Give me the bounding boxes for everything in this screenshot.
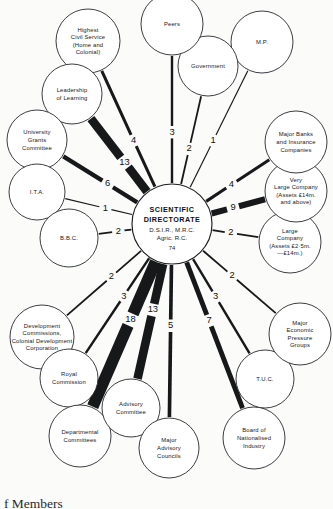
node-label-very-large-company: and above) [281, 199, 312, 205]
node-label-major-economic-pressure-groups: Groups [290, 342, 310, 348]
hub-subtitle-line1: D.S.I.R., M.R.C. [149, 226, 194, 233]
edge-value-leadership-of-learning: 13 [119, 156, 129, 167]
node-label-large-company: Large [282, 228, 298, 234]
spoke-outer-government [190, 96, 201, 143]
spoke-outer-major-banks-and-insurance [237, 160, 270, 182]
spoke-major-economic-pressure-groups [203, 251, 227, 272]
node-label-highest-civil-service: Colonial) [76, 49, 101, 55]
node-label-board-of-nationalised-industry: Board of [242, 427, 266, 433]
node-label-university-grants-committee: Committee [22, 145, 52, 151]
node-label-major-banks-and-insurance: Major Banks [279, 131, 313, 137]
edge-value-tuc: 3 [213, 290, 218, 301]
edge-value-bbc: 2 [116, 225, 121, 236]
hub-title-line2: DIRECTORATE [144, 215, 201, 224]
node-label-large-company: (Assets £2·5m. [269, 243, 311, 249]
spoke-outer-very-large-company [239, 199, 265, 206]
spoke-bbc [124, 230, 131, 231]
network-diagram: HighestCivil Service(Home andColonial)Le… [0, 0, 333, 509]
spoke-university-grants-committee [113, 187, 137, 202]
node-label-advisory-committee: Advisory [119, 401, 143, 407]
edge-value-board-of-nationalised-industry: 7 [206, 314, 211, 325]
node-label-very-large-company: (Assets £14m. [276, 192, 316, 198]
edge-value-major-banks-and-insurance: 4 [229, 178, 234, 189]
edge-value-highest-civil-service: 4 [131, 134, 136, 145]
spoke-large-company [213, 230, 225, 232]
node-label-departmental-committees: Committees [64, 437, 97, 443]
hub-title-line1: SCIENTIFIC [150, 205, 195, 214]
spoke-major-advisory-councils [171, 265, 172, 320]
spoke-outer-ita [65, 199, 99, 207]
node-label-board-of-nationalised-industry: Industry [243, 443, 265, 449]
spoke-outer-leadership-of-learning [91, 119, 121, 158]
node-label-royal-commission: Royal [61, 371, 77, 377]
node-label-mp: M.P. [256, 39, 268, 45]
node-label-major-advisory-councils: Major [161, 437, 176, 443]
node-label-university-grants-committee: Grants [28, 137, 47, 143]
edge-value-development-commissions: 2 [109, 270, 114, 281]
edge-value-major-economic-pressure-groups: 2 [230, 269, 235, 280]
spoke-ita [111, 210, 132, 215]
edge-value-royal-commission: 3 [121, 290, 126, 301]
edge-value-peers: 3 [169, 126, 174, 137]
node-label-large-company: Company [277, 235, 303, 241]
edge-value-departmental-committees: 18 [125, 313, 135, 324]
spoke-outer-bbc [99, 232, 112, 234]
node-label-peers: Peers [164, 21, 180, 27]
spoke-outer-highest-civil-service [102, 71, 131, 135]
edge-value-government: 2 [187, 142, 192, 153]
figure-caption: f Members [4, 496, 63, 509]
node-label-major-advisory-councils: Advisory [157, 445, 181, 451]
node-label-tuc: T.U.C. [256, 376, 273, 382]
spoke-outer-tuc [219, 302, 250, 353]
edge-value-large-company: 2 [228, 226, 233, 237]
edge-value-mp: 1 [211, 134, 216, 145]
spoke-government [181, 155, 188, 184]
node-label-development-commissions: Colonial Development [12, 338, 73, 344]
spoke-leadership-of-learning [128, 167, 147, 191]
hub-circle [132, 184, 212, 264]
spoke-very-large-company [212, 209, 227, 213]
node-circle-peers[interactable] [141, 0, 203, 55]
spoke-mp [190, 146, 210, 187]
node-label-ita: I.T.A. [30, 189, 45, 195]
node-label-large-company: —£14m.) [277, 250, 302, 256]
edge-value-very-large-company: 9 [230, 201, 235, 212]
spoke-outer-major-economic-pressure-groups [237, 280, 276, 313]
node-label-highest-civil-service: Highest [77, 27, 98, 33]
edge-value-university-grants-committee: 6 [105, 177, 110, 188]
edge-value-ita: 1 [103, 202, 108, 213]
network-svg: HighestCivil Service(Home andColonial)Le… [0, 0, 333, 509]
node-label-departmental-committees: Departmental [61, 429, 98, 435]
node-label-highest-civil-service: (Home and [73, 42, 104, 48]
spoke-board-of-nationalised-industry [187, 262, 207, 315]
node-label-bbc: B.B.C. [60, 235, 78, 241]
node-label-development-commissions: Commissions, [23, 330, 62, 336]
node-label-major-economic-pressure-groups: Pressure [288, 335, 313, 341]
node-label-development-commissions: Development [24, 323, 61, 329]
node-label-leadership-of-learning: Leadership [57, 87, 88, 93]
node-label-leadership-of-learning: of Learning [56, 95, 87, 101]
node-label-board-of-nationalised-industry: Nationalised [237, 435, 271, 441]
hub-subtitle-line2: Agric. R.C. [157, 234, 188, 241]
spoke-outer-development-commissions [67, 281, 107, 316]
node-label-major-economic-pressure-groups: Economic [286, 327, 313, 333]
node-label-royal-commission: Commission [52, 379, 86, 385]
spoke-outer-large-company [237, 234, 258, 237]
node-label-very-large-company: Large Company [274, 184, 318, 190]
node-label-major-banks-and-insurance: Companies [280, 147, 311, 153]
spoke-outer-advisory-committee [138, 316, 152, 379]
hub-member-count: 74 [169, 245, 176, 251]
node-label-government: Government [191, 63, 225, 69]
node-label-university-grants-committee: University [23, 129, 50, 135]
node-label-very-large-company: Very [290, 177, 302, 183]
spoke-outer-major-advisory-councils [169, 332, 170, 417]
node-label-major-banks-and-insurance: and Insurance [276, 139, 316, 145]
edge-value-advisory-committee: 13 [148, 303, 158, 314]
node-label-advisory-committee: Committee [116, 409, 146, 415]
hub-layer: SCIENTIFIC DIRECTORATE D.S.I.R., M.R.C. … [132, 184, 212, 264]
spoke-major-banks-and-insurance [206, 188, 226, 201]
node-label-major-economic-pressure-groups: Major [292, 320, 307, 326]
node-label-highest-civil-service: Civil Service [71, 34, 106, 40]
node-label-major-advisory-councils: Councils [157, 453, 181, 459]
spoke-outer-university-grants-committee [63, 156, 102, 180]
